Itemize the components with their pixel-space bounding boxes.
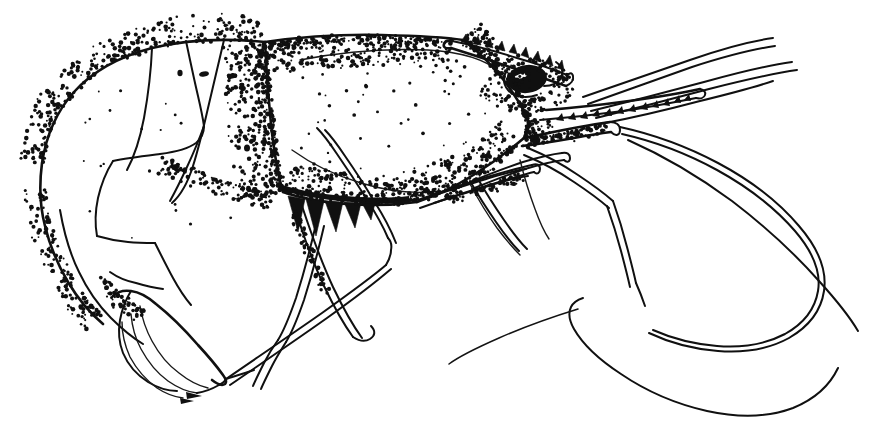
- stipple-carapace-dorsal: [363, 43, 365, 45]
- stipple-carapace-interior: [349, 65, 352, 68]
- stipple-carapace-orbital: [537, 121, 540, 124]
- stipple-eye-socket: [495, 94, 498, 97]
- stipple-carapace-orbital: [541, 97, 546, 102]
- stipple-carapace-dorsal: [285, 63, 289, 67]
- stipple-abdomen-pleural: [186, 175, 190, 179]
- stipple-abdomen-pleural: [248, 187, 251, 190]
- stipple-carapace-posterior: [261, 177, 265, 181]
- stipple-carapace-orbital: [512, 76, 515, 79]
- stipple-maxilliped-edge: [475, 192, 479, 196]
- stipple-abdomen-interior: [229, 216, 232, 219]
- stipple-carapace-posterior: [237, 125, 240, 128]
- stipple-carapace-dorsal: [317, 62, 319, 64]
- stipple-carapace-posterior: [273, 163, 276, 166]
- stipple-carapace-dorsal: [330, 40, 332, 42]
- stipple-abdomen-pleural: [268, 199, 272, 203]
- stipple-abdomen-dorsal: [192, 25, 194, 27]
- stipple-eye-socket: [552, 78, 555, 81]
- stipple-carapace-interior: [444, 79, 447, 82]
- stipple-abdomen-dorsal: [25, 129, 29, 133]
- stipple-carapace-dorsal: [297, 36, 299, 38]
- stipple-eye-socket: [538, 66, 542, 70]
- stipple-antennal-peduncle: [603, 125, 605, 127]
- stipple-abdomen-pleural: [171, 176, 175, 180]
- stipple-abdomen-posterior: [36, 207, 40, 211]
- stipple-carapace-orbital: [521, 80, 524, 83]
- stipple-abdomen-dorsal: [209, 40, 213, 44]
- stipple-carapace-posterior: [270, 149, 273, 152]
- stipple-carapace-ventral: [368, 182, 372, 186]
- stipple-antennal-peduncle: [553, 134, 555, 136]
- stipple-antennal-peduncle: [532, 140, 536, 144]
- stipple-carapace-interior: [408, 82, 411, 85]
- stipple-carapace-interior: [459, 75, 462, 78]
- stipple-carapace-dorsal: [359, 56, 361, 58]
- stipple-abdomen-dorsal: [44, 141, 47, 144]
- stipple-carapace-dorsal: [381, 63, 385, 67]
- stipple-carapace-ventral: [468, 171, 472, 175]
- stipple-carapace-ventral: [412, 170, 416, 174]
- stipple-carapace-dorsal: [332, 46, 336, 50]
- stipple-carapace-orbital: [551, 126, 553, 128]
- stipple-carapace-orbital: [511, 92, 513, 94]
- stipple-abdomen-posterior: [81, 291, 85, 295]
- stipple-antennal-peduncle: [572, 131, 577, 136]
- stipple-carapace-ventral: [434, 188, 437, 191]
- stipple-carapace-posterior: [257, 62, 261, 66]
- stipple-abdomen-dorsal: [31, 150, 35, 154]
- stipple-carapace-posterior: [221, 46, 225, 50]
- stipple-antennal-peduncle: [524, 137, 529, 142]
- stipple-carapace-interior: [496, 99, 498, 101]
- stipple-maxilliped-edge: [444, 194, 448, 198]
- stipple-abdomen-posterior: [24, 189, 27, 192]
- stipple-antennal-peduncle: [530, 136, 534, 140]
- stipple-abdomen-pleural: [167, 171, 171, 175]
- stipple-carapace-dorsal: [292, 45, 294, 47]
- stipple-carapace-ventral: [320, 190, 322, 192]
- stipple-carapace-posterior: [253, 70, 255, 72]
- stipple-carapace-ventral: [315, 197, 318, 200]
- stipple-carapace-ventral: [289, 182, 292, 185]
- stipple-carapace-orbital: [517, 100, 521, 104]
- stipple-carapace-ventral: [403, 198, 406, 201]
- stipple-abdomen-dorsal: [116, 54, 119, 57]
- stipple-abdomen-posterior: [67, 308, 69, 310]
- stipple-carapace-ventral: [463, 155, 465, 157]
- stipple-carapace-posterior: [232, 165, 236, 169]
- stipple-carapace-ventral: [329, 173, 333, 177]
- stipple-carapace-dorsal: [450, 48, 452, 50]
- stipple-carapace-posterior: [266, 109, 268, 111]
- stipple-abdomen-dorsal: [218, 31, 223, 36]
- stipple-carapace-dorsal: [330, 34, 333, 37]
- stipple-antennal-peduncle: [580, 134, 583, 137]
- stipple-abdomen-pleural: [248, 196, 250, 198]
- stipple-carapace-posterior: [258, 131, 261, 134]
- stipple-carapace-dorsal: [373, 35, 377, 39]
- stipple-abdomen-posterior: [58, 289, 61, 292]
- stipple-carapace-ventral: [293, 179, 296, 182]
- stipple-carapace-posterior: [273, 141, 276, 144]
- stipple-abdomen-dorsal: [241, 31, 243, 33]
- stipple-eye-socket: [567, 76, 571, 80]
- stipple-carapace-ventral: [319, 180, 322, 183]
- stipple-carapace-dorsal: [338, 49, 340, 51]
- stipple-eye-socket: [548, 75, 552, 79]
- stipple-abdomen-posterior: [51, 241, 54, 244]
- stipple-eye-socket: [527, 66, 531, 70]
- stipple-carapace-ventral: [328, 170, 330, 172]
- stipple-abdomen-posterior: [59, 257, 61, 259]
- stipple-abdomen-pleural: [170, 161, 173, 164]
- stipple-carapace-interior: [362, 94, 364, 96]
- stipple-carapace-dorsal: [406, 47, 410, 51]
- stipple-carapace-posterior: [250, 182, 253, 185]
- stipple-carapace-orbital: [541, 125, 543, 127]
- stipple-carapace-dorsal: [385, 56, 387, 58]
- stipple-carapace-orbital: [526, 126, 530, 130]
- stipple-abdomen-posterior: [66, 273, 69, 276]
- stipple-eye-socket: [501, 97, 503, 99]
- stipple-pereiopod-base: [300, 241, 304, 245]
- stipple-eye-socket: [503, 66, 505, 68]
- stipple-abdomen-dorsal: [60, 73, 63, 76]
- stipple-carapace-orbital: [541, 130, 545, 134]
- stipple-abdomen-dorsal: [168, 35, 171, 38]
